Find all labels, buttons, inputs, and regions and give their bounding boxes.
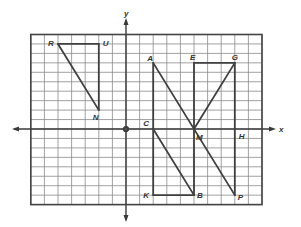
segment-RN [58, 44, 99, 110]
point-label-A: A [146, 54, 153, 63]
origin-label: O [123, 126, 129, 133]
point-label-B: B [197, 191, 203, 200]
x-axis-right-arrow-icon [269, 127, 276, 132]
grid-svg: xyO RUNAEGCMHKBP [0, 0, 301, 227]
y-axis-label: y [123, 9, 129, 18]
coordinate-grid-diagram: xyO RUNAEGCMHKBP [0, 0, 301, 227]
segment-GM [194, 63, 235, 129]
point-label-P: P [238, 193, 244, 202]
point-label-N: N [93, 113, 99, 122]
point-label-H: H [239, 132, 245, 141]
point-label-K: K [143, 191, 150, 200]
x-axis-label: x [278, 125, 284, 134]
point-label-C: C [143, 119, 149, 128]
y-axis-up-arrow-icon [124, 18, 129, 25]
point-label-G: G [232, 53, 238, 62]
x-axis-left-arrow-icon [12, 127, 19, 132]
point-label-E: E [190, 53, 196, 62]
segment-CB [153, 129, 194, 195]
point-label-M: M [196, 133, 203, 142]
y-axis-down-arrow-icon [124, 215, 129, 222]
point-label-U: U [103, 39, 109, 48]
point-label-R: R [48, 39, 54, 48]
